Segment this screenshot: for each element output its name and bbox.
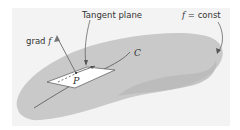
point-p: [75, 72, 77, 74]
grad-f-label: grad f: [26, 37, 51, 46]
point-p-label: P: [73, 76, 79, 86]
grad-f-symbol: f: [48, 36, 51, 46]
surface-label: f = const: [182, 11, 221, 20]
tangent-plane-label: Tangent plane: [82, 11, 142, 20]
grad-text: grad: [26, 36, 46, 46]
surface-f-symbol: f: [182, 10, 185, 20]
surface-eq-text: = const: [188, 10, 221, 20]
curve-c-label: C: [134, 49, 141, 58]
level-surface-diagram: Tangent plane grad f f = const C P: [0, 0, 240, 130]
